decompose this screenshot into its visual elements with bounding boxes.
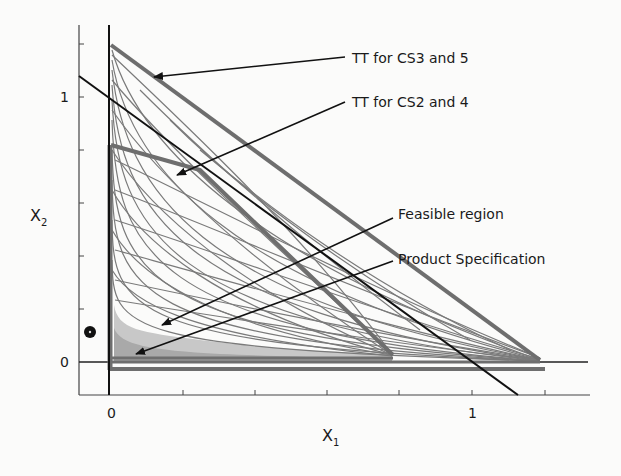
x-axis-label: X1 <box>322 426 339 448</box>
label-product-specification: Product Specification <box>398 251 546 267</box>
x-ticks <box>183 390 545 395</box>
label-tt-cs2-4: TT for CS2 and 4 <box>351 94 469 110</box>
y-axis-label: X2 <box>30 206 47 228</box>
ternary-diagram: TT for CS3 and 5 TT for CS2 and 4 Feasib… <box>0 0 621 476</box>
y-tick-label-0: 0 <box>60 354 69 370</box>
y-tick-label-1: 1 <box>60 89 69 105</box>
label-feasible-region: Feasible region <box>398 206 504 222</box>
tt-cs3-5-triangle <box>111 45 540 360</box>
x-tick-label-1: 1 <box>468 405 477 421</box>
y-ticks <box>79 44 84 309</box>
label-tt-cs3-5: TT for CS3 and 5 <box>351 50 469 66</box>
x-tick-label-0: 0 <box>107 405 116 421</box>
tt-cs2-4-triangle <box>111 145 393 355</box>
arrow-tt-cs3-5 <box>154 57 345 77</box>
